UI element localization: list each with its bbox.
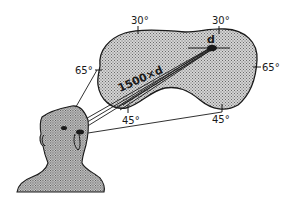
- observer-head: [17, 106, 104, 192]
- label-right-65: 65°: [262, 62, 280, 73]
- label-top-right-30: 30°: [212, 15, 230, 26]
- label-left-65: 65°: [75, 65, 93, 76]
- label-top-left-30: 30°: [131, 15, 149, 26]
- eye-icon-right: [76, 130, 84, 135]
- label-bottom-right-45: 45°: [212, 114, 230, 125]
- target-label: d: [207, 33, 215, 46]
- vision-diagram: 30° 30° 65° 65° 45° 45° 1500×d d: [0, 0, 298, 206]
- eye-icon: [61, 126, 67, 130]
- label-bottom-left-45: 45°: [122, 115, 140, 126]
